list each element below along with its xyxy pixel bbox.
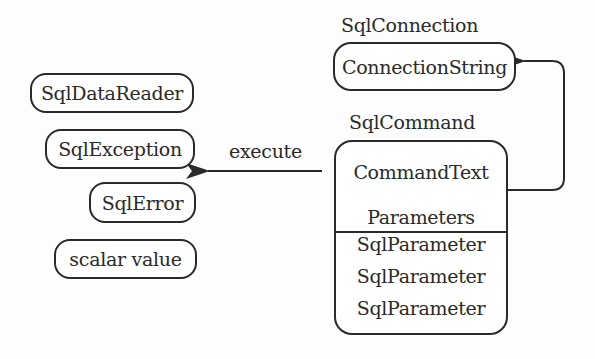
sqldatareader-label: SqlDataReader bbox=[41, 82, 183, 104]
sqlparameter-item: SqlParameter bbox=[336, 233, 506, 255]
sqldatareader-box: SqlDataReader bbox=[30, 73, 194, 113]
sqlexception-box: SqlException bbox=[45, 129, 195, 169]
sqlerror-label: SqlError bbox=[102, 192, 183, 214]
connectionstring-label: ConnectionString bbox=[342, 56, 507, 78]
execute-label: execute bbox=[229, 140, 302, 162]
sqlcommand-title: SqlCommand bbox=[349, 111, 475, 133]
sqlconnection-title: SqlConnection bbox=[341, 14, 478, 36]
parameters-label: Parameters bbox=[336, 206, 506, 228]
scalar-value-label: scalar value bbox=[69, 248, 181, 270]
sqlcommand-box: CommandText Parameters SqlParameter SqlP… bbox=[334, 140, 508, 335]
sqlexception-label: SqlException bbox=[58, 138, 182, 160]
connection-arrow bbox=[507, 61, 564, 190]
sqlparameter-item: SqlParameter bbox=[336, 265, 506, 287]
connectionstring-box: ConnectionString bbox=[333, 42, 516, 91]
commandtext-label: CommandText bbox=[336, 161, 506, 183]
sqlparameter-item: SqlParameter bbox=[336, 297, 506, 319]
scalar-value-box: scalar value bbox=[54, 239, 197, 279]
sqlerror-box: SqlError bbox=[89, 182, 196, 223]
